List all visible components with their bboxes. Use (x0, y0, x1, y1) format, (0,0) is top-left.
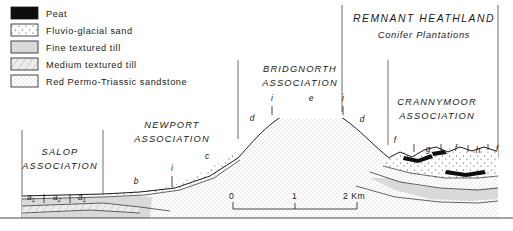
cross-section-canvas: Peat Fluvio-glacial sand Fine textured t… (0, 0, 513, 231)
scale-label-mid: 1 (292, 191, 297, 201)
soil-code-d: d (360, 114, 365, 124)
legend-swatch-red-permo-triassic-sandstone (11, 75, 38, 87)
association-bridgnorth-line2: ASSOCIATION (261, 78, 338, 88)
scale-label-start: 0 (229, 191, 234, 201)
association-newport-line1: NEWPORT (144, 120, 200, 130)
legend-label-peat: Peat (46, 9, 67, 19)
soil-code-h: h (476, 145, 481, 155)
association-newport-line2: ASSOCIATION (133, 134, 210, 144)
land-use-header: REMNANT HEATHLAND Conifer Plantations (353, 13, 495, 40)
soil-code-i: i (342, 93, 345, 103)
association-salop-line1: SALOP (42, 147, 79, 157)
soil-code-f: f (394, 135, 398, 145)
soil-code-g: g (426, 144, 431, 154)
remnant-heathland-title: REMNANT HEATHLAND (353, 13, 495, 24)
scale-label-end: 2 Km (343, 191, 365, 201)
legend-label-red-permo-triassic-sandstone: Red Permo-Triassic sandstone (46, 77, 187, 87)
legend-swatch-medium-textured-till (11, 58, 38, 70)
soil-code-a1: a1 (78, 192, 86, 203)
soil-code-i: i (271, 93, 274, 103)
association-crannymoor-line1: CRANNYMOOR (397, 97, 477, 107)
legend-swatch-fluvio-glacial-sand (11, 24, 38, 36)
legend-label-medium-textured-till: Medium textured till (46, 60, 137, 70)
legend-swatch-peat (11, 7, 38, 19)
soil-code-f: f (496, 144, 500, 154)
legend-label-fine-textured-till: Fine textured till (46, 43, 121, 53)
soil-code-i: i (171, 163, 174, 173)
legend-label-fluvio-glacial-sand: Fluvio-glacial sand (46, 26, 133, 36)
association-bridgnorth-line1: BRIDGNORTH (263, 64, 337, 74)
soil-code-d: d (250, 113, 255, 123)
soil-code-c: c (205, 151, 210, 161)
soil-code-b: b (134, 176, 139, 186)
legend-swatch-fine-textured-till (11, 41, 38, 53)
association-salop-line2: ASSOCIATION (21, 161, 98, 171)
soil-code-a1: a1 (27, 192, 35, 203)
legend: Peat Fluvio-glacial sand Fine textured t… (11, 7, 187, 87)
association-crannymoor-line2: ASSOCIATION (398, 111, 475, 121)
conifer-plantations-subtitle: Conifer Plantations (378, 29, 471, 40)
cross-section-figure: Peat Fluvio-glacial sand Fine textured t… (0, 0, 513, 231)
soil-code-a2: a2 (53, 192, 62, 203)
soil-code-e: e (309, 93, 314, 103)
